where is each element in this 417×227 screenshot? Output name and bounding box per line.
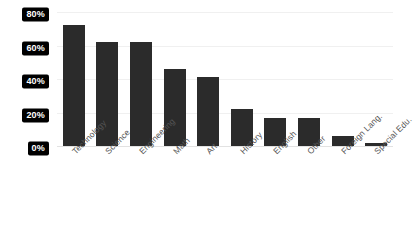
y-axis: 0%20%40%60%80% <box>0 0 57 227</box>
x-axis-tick: Special Edu. <box>372 149 417 159</box>
bar[interactable] <box>63 25 85 146</box>
bar-slot <box>231 12 253 146</box>
x-axis-tick: History <box>238 149 265 159</box>
y-axis-tick-label: 40% <box>22 75 49 89</box>
bars-layer <box>57 12 393 146</box>
x-axis-tick: Art <box>204 149 215 159</box>
y-axis-tick-label: 60% <box>22 41 49 55</box>
plot-area <box>57 12 393 146</box>
y-axis-tick: 80% <box>22 3 49 22</box>
x-axis: TechnologyScienceEngineeringMathArtHisto… <box>57 149 393 227</box>
bar[interactable] <box>130 42 152 146</box>
y-axis-tick: 20% <box>22 103 49 122</box>
x-axis-tick: Other <box>305 149 327 159</box>
y-axis-tick-label: 20% <box>22 108 49 122</box>
y-axis-tick: 0% <box>28 137 49 156</box>
x-axis-tick: Math <box>171 149 190 159</box>
bar-slot <box>63 12 85 146</box>
y-axis-tick-label: 80% <box>22 8 49 22</box>
bar-slot <box>197 12 219 146</box>
y-axis-tick-label: 0% <box>28 142 49 156</box>
x-axis-tick: English <box>271 149 300 159</box>
bar[interactable] <box>164 69 186 146</box>
y-axis-tick: 60% <box>22 36 49 55</box>
x-axis-tick: Science <box>103 149 134 159</box>
bar-slot <box>332 12 354 146</box>
bar-slot <box>298 12 320 146</box>
y-axis-tick: 40% <box>22 70 49 89</box>
bar[interactable] <box>197 77 219 146</box>
bar-slot <box>130 12 152 146</box>
bar-slot <box>264 12 286 146</box>
